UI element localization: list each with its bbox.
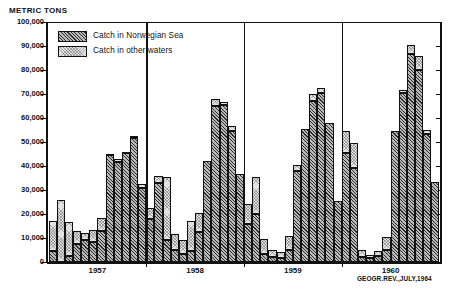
bar-column xyxy=(317,88,325,262)
bar-column xyxy=(382,237,390,262)
x-axis-year-label: 1959 xyxy=(273,266,313,275)
bar-column xyxy=(179,240,187,262)
bar-segment-norwegian-sea xyxy=(407,54,415,262)
bar-segment-other-waters xyxy=(97,218,105,231)
bar-segment-norwegian-sea xyxy=(285,250,293,262)
bar-column xyxy=(228,126,236,262)
bar-segment-norwegian-sea xyxy=(106,155,114,262)
bar-column xyxy=(106,154,114,262)
y-axis-label: 50,000 xyxy=(21,138,44,146)
bar-segment-norwegian-sea xyxy=(399,93,407,262)
bar-column xyxy=(285,236,293,262)
bar-column xyxy=(391,131,399,262)
x-axis-year-label: 1960 xyxy=(371,266,411,275)
bar-column xyxy=(195,213,203,262)
bar-segment-norwegian-sea xyxy=(49,251,57,262)
bar-column xyxy=(334,201,342,262)
bar-column xyxy=(309,94,317,262)
bar-segment-other-waters xyxy=(65,222,73,256)
bar-segment-norwegian-sea xyxy=(277,258,285,262)
bar-segment-other-waters xyxy=(415,56,423,70)
y-axis-tick-right xyxy=(436,22,442,23)
year-divider xyxy=(244,22,245,262)
legend: Catch in Norwegian Sea Catch in other wa… xyxy=(58,31,184,61)
y-axis-label: 30,000 xyxy=(21,186,44,194)
bar-column xyxy=(301,129,309,262)
bar-segment-other-waters xyxy=(81,233,89,240)
bar-segment-norwegian-sea xyxy=(431,182,439,262)
x-axis-tick xyxy=(146,262,147,267)
bar-segment-other-waters xyxy=(358,250,366,257)
y-axis-label: 70,000 xyxy=(21,90,44,98)
bar-column xyxy=(350,143,358,262)
bar-segment-norwegian-sea xyxy=(423,134,431,262)
page-title: METRIC TONS xyxy=(9,6,67,15)
bar-column xyxy=(89,230,97,262)
bar-segment-other-waters xyxy=(187,221,195,251)
bar-segment-norwegian-sea xyxy=(268,257,276,262)
bar-segment-norwegian-sea xyxy=(325,123,333,262)
bar-segment-norwegian-sea xyxy=(382,250,390,262)
bar-column xyxy=(138,184,146,262)
x-axis-tick xyxy=(244,262,245,267)
bar-column xyxy=(293,165,301,262)
y-axis-tick-right xyxy=(436,166,442,167)
chart-figure: METRIC TONS 010,00020,00030,00040,00050,… xyxy=(0,0,462,292)
bar-column xyxy=(57,200,65,262)
legend-swatch-other-waters xyxy=(58,46,87,57)
bar-segment-norwegian-sea xyxy=(138,188,146,262)
bar-segment-other-waters xyxy=(73,231,81,244)
source-note: GEOGR.REV.,JULY,1964 xyxy=(357,275,432,282)
bar-column xyxy=(211,99,219,262)
bar-segment-other-waters xyxy=(268,250,276,257)
bar-segment-other-waters xyxy=(57,200,65,262)
y-axis-label: 0 xyxy=(40,258,44,266)
y-axis-tick-right xyxy=(436,94,442,95)
y-axis-tick-right xyxy=(436,118,442,119)
bar-segment-norwegian-sea xyxy=(350,168,358,262)
bar-segment-norwegian-sea xyxy=(65,256,73,262)
bar-column xyxy=(49,221,57,262)
bar-column xyxy=(399,90,407,262)
x-axis-year-label: 1958 xyxy=(175,266,215,275)
bar-segment-norwegian-sea xyxy=(309,101,317,262)
bar-segment-norwegian-sea xyxy=(358,257,366,262)
bar-segment-other-waters xyxy=(179,240,187,253)
bar-segment-norwegian-sea xyxy=(195,232,203,262)
bar-segment-other-waters xyxy=(252,177,260,214)
bar-column xyxy=(431,182,439,262)
bar-column xyxy=(277,252,285,262)
y-axis-label: 90,000 xyxy=(21,42,44,50)
legend-label-other-waters: Catch in other waters xyxy=(93,47,172,55)
bar-segment-norwegian-sea xyxy=(130,138,138,262)
bar-column xyxy=(122,152,130,262)
bar-segment-norwegian-sea xyxy=(154,183,162,262)
bar-segment-other-waters xyxy=(211,99,219,106)
bar-segment-norwegian-sea xyxy=(220,105,228,262)
bar-column xyxy=(325,123,333,262)
y-axis-label: 40,000 xyxy=(21,162,44,170)
bar-segment-other-waters xyxy=(382,237,390,250)
bar-column xyxy=(220,102,228,262)
bar-column xyxy=(268,250,276,262)
y-axis-label: 60,000 xyxy=(21,114,44,122)
y-axis-tick-right xyxy=(436,70,442,71)
bar-segment-norwegian-sea xyxy=(334,201,342,262)
bar-segment-other-waters xyxy=(89,230,97,242)
bar-segment-norwegian-sea xyxy=(114,162,122,262)
bar-column xyxy=(65,222,73,262)
bar-column xyxy=(163,177,171,262)
legend-item-other-waters: Catch in other waters xyxy=(58,46,184,57)
bar-segment-norwegian-sea xyxy=(73,244,81,262)
bar-segment-norwegian-sea xyxy=(366,258,374,262)
bar-segment-norwegian-sea xyxy=(89,242,97,262)
y-axis-label: 100,000 xyxy=(17,18,44,26)
bar-segment-norwegian-sea xyxy=(391,131,399,262)
bar-column xyxy=(236,174,244,262)
bar-segment-other-waters xyxy=(163,177,171,241)
bar-segment-norwegian-sea xyxy=(374,256,382,262)
bar-column xyxy=(130,136,138,262)
bar-column xyxy=(203,161,211,262)
bar-column xyxy=(97,218,105,262)
bar-column xyxy=(358,250,366,262)
